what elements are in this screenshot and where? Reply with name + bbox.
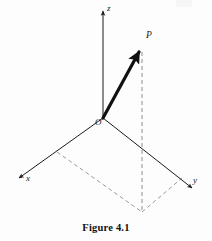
- origin-label: O: [95, 118, 102, 127]
- axis-label-z: z: [107, 4, 111, 13]
- axis-label-x: x: [26, 174, 30, 183]
- axis-label-y: y: [193, 176, 197, 185]
- point-label-p: P: [146, 31, 152, 41]
- figure-caption: Figure 4.1: [0, 222, 212, 233]
- x-axis: [19, 118, 103, 178]
- coordinate-system-diagram: [0, 0, 212, 241]
- parallelogram-edge-x-to-foot: [57, 152, 142, 212]
- xy-plane-parallelogram: [57, 152, 182, 212]
- parallelogram-edge-foot-to-y: [142, 178, 182, 212]
- y-axis: [103, 118, 192, 188]
- figure-container: z x y O P Figure 4.1: [0, 0, 212, 241]
- position-vector-op: [103, 52, 139, 118]
